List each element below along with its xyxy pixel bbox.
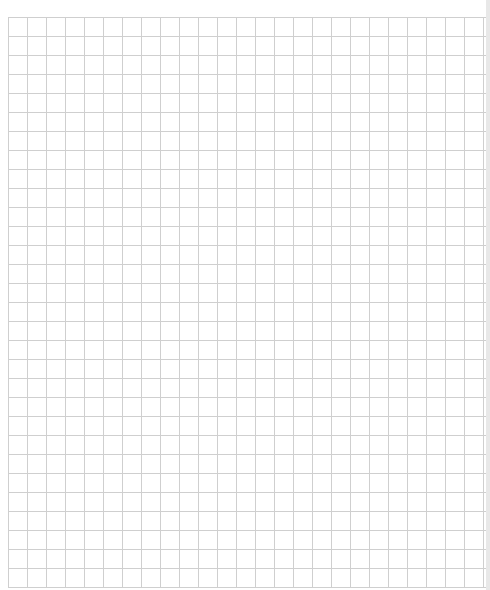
grid-paper [8, 17, 487, 588]
page-edge-shadow [486, 0, 490, 590]
